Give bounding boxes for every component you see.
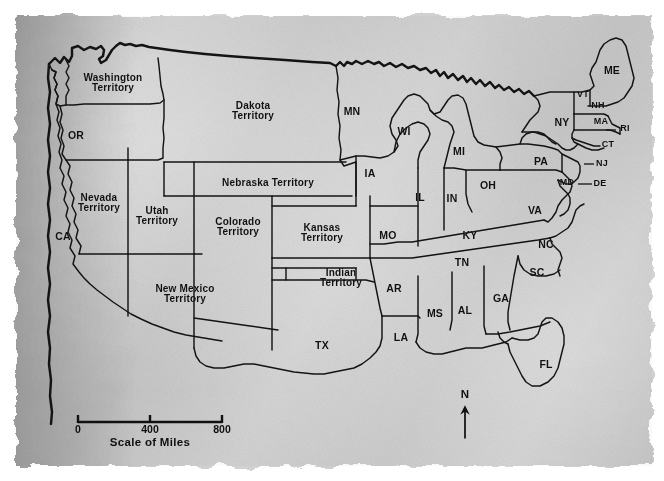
map-figure: Washington TerritoryORCANevada Territory… xyxy=(0,0,664,481)
region-label-delaware: DE xyxy=(594,179,607,188)
region-label-nebraska-territory: Nebraska Territory xyxy=(222,178,314,188)
region-label-pennsylvania: PA xyxy=(534,156,548,167)
region-label-rhode-island: RI xyxy=(620,124,629,133)
region-label-virginia: VA xyxy=(528,205,542,216)
region-label-kansas-territory: Kansas Territory xyxy=(301,223,343,244)
compass-north-arrow: N xyxy=(450,390,480,448)
region-label-louisiana: LA xyxy=(394,332,408,343)
region-label-indiana: IN xyxy=(447,193,458,204)
region-label-arkansas: AR xyxy=(386,283,402,294)
region-label-utah-territory: Utah Territory xyxy=(136,206,178,227)
region-label-alabama: AL xyxy=(458,305,472,316)
region-label-washington-territory: Washington Territory xyxy=(84,73,143,94)
region-label-north-carolina: NC xyxy=(538,239,554,250)
north-arrow-icon xyxy=(450,402,480,448)
region-label-maine: ME xyxy=(604,65,620,76)
region-label-nevada-territory: Nevada Territory xyxy=(78,193,120,214)
region-label-wisconsin: WI xyxy=(397,126,410,137)
region-label-vermont: VT xyxy=(577,90,589,99)
region-label-missouri: MO xyxy=(379,230,396,241)
region-label-florida: FL xyxy=(539,359,552,370)
region-label-kentucky: KY xyxy=(463,230,478,241)
region-label-massachusetts: MA xyxy=(594,117,608,126)
scale-bar-title: Scale of Miles xyxy=(110,436,190,448)
compass-north-label: N xyxy=(461,388,469,400)
region-label-texas: TX xyxy=(315,340,329,351)
region-label-illinois: IL xyxy=(415,192,425,203)
region-label-california: CA xyxy=(55,231,71,242)
region-label-iowa: IA xyxy=(365,168,376,179)
region-label-maryland: MD xyxy=(560,178,574,187)
region-label-georgia: GA xyxy=(493,293,509,304)
region-label-colorado-territory: Colorado Territory xyxy=(215,217,261,238)
scale-tick-2: 800 xyxy=(213,423,231,435)
region-label-michigan: MI xyxy=(453,146,465,157)
region-label-oregon: OR xyxy=(68,130,84,141)
scale-tick-0: 0 xyxy=(75,423,81,435)
region-label-new-mexico-territory: New Mexico Territory xyxy=(155,284,214,305)
region-label-connecticut: CT xyxy=(602,140,614,149)
region-label-tennessee: TN xyxy=(455,257,469,268)
scale-bar: 0400800 Scale of Miles xyxy=(60,404,240,452)
region-label-dakota-territory: Dakota Territory xyxy=(232,101,274,122)
region-label-new-hampshire: NH xyxy=(591,101,604,110)
region-label-new-jersey: NJ xyxy=(596,159,608,168)
region-label-new-york: NY xyxy=(555,117,570,128)
region-label-indian-territory: Indian Territory xyxy=(320,268,362,289)
region-label-minnesota: MN xyxy=(344,106,361,117)
region-label-mississippi: MS xyxy=(427,308,443,319)
region-label-ohio: OH xyxy=(480,180,496,191)
scale-tick-1: 400 xyxy=(141,423,159,435)
region-label-south-carolina: SC xyxy=(530,267,545,278)
